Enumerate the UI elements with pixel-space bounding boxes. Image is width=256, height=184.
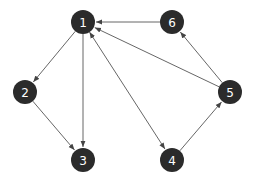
node-1: 1 (71, 10, 95, 34)
node-label: 3 (79, 154, 87, 168)
node-label: 5 (226, 86, 234, 100)
edge-5-to-6 (180, 32, 222, 83)
node-3: 3 (71, 148, 95, 172)
graph-canvas: 162534 (0, 0, 256, 184)
edge-2-to-3 (33, 101, 75, 150)
node-label: 6 (168, 16, 176, 30)
node-2: 2 (13, 80, 37, 104)
edge-1-to-4 (90, 32, 165, 149)
node-5: 5 (218, 80, 242, 104)
edge-1-to-2 (33, 31, 75, 82)
node-label: 1 (79, 16, 87, 30)
node-4: 4 (160, 148, 184, 172)
node-label: 4 (168, 154, 176, 168)
edges-layer (33, 22, 223, 151)
node-label: 2 (21, 86, 29, 100)
edge-4-to-5 (180, 102, 222, 151)
edge-5-to-1 (95, 28, 219, 87)
node-6: 6 (160, 10, 184, 34)
